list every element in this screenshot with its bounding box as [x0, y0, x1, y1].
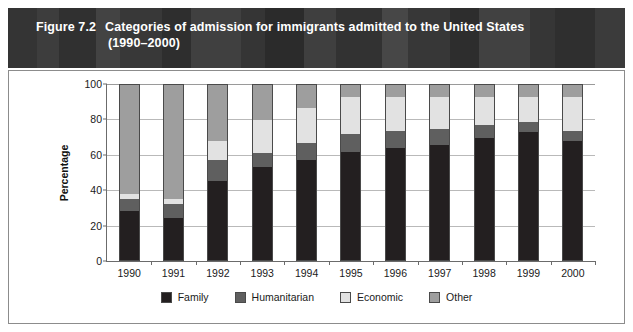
stacked-bar-1996[interactable] [385, 84, 406, 261]
x-tick-mark-2000 [551, 261, 552, 265]
bar-cell-1990 [107, 84, 151, 261]
bar-segment-family-1999 [519, 132, 538, 260]
legend-item-economic[interactable]: Economic [340, 291, 403, 303]
bar-segment-other-1994 [297, 85, 316, 108]
x-tick-label-1991: 1991 [162, 267, 185, 279]
bar-segment-other-1995 [341, 85, 360, 97]
bar-cell-1993 [240, 84, 284, 261]
bar-cell-1997 [418, 84, 462, 261]
legend-label-family: Family [178, 291, 209, 303]
bar-segment-other-1993 [253, 85, 272, 120]
x-tick-mark-end [595, 261, 596, 265]
x-tick-mark-1995 [329, 261, 330, 265]
x-tick-mark-1991 [151, 261, 152, 265]
x-tick-label-1999: 1999 [517, 267, 540, 279]
stacked-bar-1994[interactable] [296, 84, 317, 261]
legend-label-humanitarian: Humanitarian [252, 291, 314, 303]
x-tick-mark-1992 [196, 261, 197, 265]
x-tick-label-1998: 1998 [472, 267, 495, 279]
bar-segment-humanitarian-1993 [253, 153, 272, 167]
bar-segment-humanitarian-2000 [563, 131, 582, 142]
legend-swatch-economic [340, 292, 351, 303]
y-tick-label-100: 100 [84, 78, 102, 90]
bar-cell-1999 [506, 84, 550, 261]
bar-segment-economic-1999 [519, 97, 538, 122]
bar-segment-humanitarian-1998 [475, 125, 494, 137]
bar-segment-economic-1994 [297, 108, 316, 143]
bar-segment-family-1990 [120, 211, 139, 260]
bar-segment-economic-1995 [341, 97, 360, 134]
bar-segment-economic-1997 [430, 97, 449, 129]
bar-segment-humanitarian-1996 [386, 131, 405, 149]
bar-cell-2000 [551, 84, 595, 261]
chart-legend: FamilyHumanitarianEconomicOther [9, 291, 624, 303]
bar-segment-economic-2000 [563, 97, 582, 130]
stacked-bar-1995[interactable] [340, 84, 361, 261]
bar-segment-humanitarian-1999 [519, 122, 538, 133]
y-tick-label-60: 60 [90, 149, 102, 161]
bar-segment-other-1990 [120, 85, 139, 194]
stacked-bar-1993[interactable] [252, 84, 273, 261]
legend-swatch-humanitarian [235, 292, 246, 303]
figure-number: Figure 7.2 [36, 20, 96, 34]
bar-segment-humanitarian-1994 [297, 143, 316, 161]
bar-cell-1994 [284, 84, 328, 261]
stacked-bar-1992[interactable] [207, 84, 228, 261]
stacked-bar-1998[interactable] [474, 84, 495, 261]
x-tick-label-1990: 1990 [117, 267, 140, 279]
stacked-bar-1999[interactable] [518, 84, 539, 261]
bar-cell-1996 [373, 84, 417, 261]
stacked-bar-1991[interactable] [163, 84, 184, 261]
x-tick-label-1997: 1997 [428, 267, 451, 279]
bar-segment-humanitarian-1990 [120, 199, 139, 211]
plot-area: 020406080100 199019911992199319941995199… [106, 84, 595, 262]
bar-segment-other-1998 [475, 85, 494, 97]
legend-swatch-family [161, 292, 172, 303]
bar-segment-other-1999 [519, 85, 538, 97]
legend-item-humanitarian[interactable]: Humanitarian [235, 291, 314, 303]
y-tick-label-80: 80 [90, 113, 102, 125]
bar-segment-economic-1992 [208, 141, 227, 160]
bar-cell-1992 [196, 84, 240, 261]
x-tick-label-2000: 2000 [561, 267, 584, 279]
bar-cell-1995 [329, 84, 373, 261]
bar-cell-1998 [462, 84, 506, 261]
bar-segment-other-1996 [386, 85, 405, 97]
bar-segment-humanitarian-1997 [430, 129, 449, 145]
stacked-bar-1997[interactable] [429, 84, 450, 261]
figure-title: Figure 7.2Categories of admission for im… [36, 19, 615, 51]
bar-segment-economic-1996 [386, 97, 405, 130]
bar-segment-humanitarian-1995 [341, 134, 360, 152]
bar-segment-family-1993 [253, 167, 272, 260]
x-tick-mark-1999 [506, 261, 507, 265]
bar-segment-family-1997 [430, 145, 449, 261]
bar-segment-other-2000 [563, 85, 582, 97]
bar-segment-family-2000 [563, 141, 582, 260]
bar-group [107, 84, 595, 261]
legend-label-other: Other [446, 291, 472, 303]
x-tick-mark-1997 [418, 261, 419, 265]
legend-item-other[interactable]: Other [429, 291, 472, 303]
bar-segment-family-1996 [386, 148, 405, 260]
y-axis-label: Percentage [57, 84, 71, 262]
chart-panel: Percentage 020406080100 1990199119921993… [8, 70, 625, 324]
bar-segment-family-1995 [341, 152, 360, 261]
figure-title-line1: Categories of admission for immigrants a… [105, 20, 524, 34]
legend-label-economic: Economic [357, 291, 403, 303]
bar-segment-family-1992 [208, 181, 227, 260]
x-tick-mark-1998 [462, 261, 463, 265]
y-tick-label-0: 0 [96, 255, 102, 267]
legend-swatch-other [429, 292, 440, 303]
bar-cell-1991 [151, 84, 195, 261]
legend-item-family[interactable]: Family [161, 291, 209, 303]
stacked-bar-2000[interactable] [562, 84, 583, 261]
x-tick-label-1996: 1996 [384, 267, 407, 279]
stacked-bar-1990[interactable] [119, 84, 140, 261]
figure-banner: Figure 7.2Categories of admission for im… [8, 8, 625, 68]
x-tick-label-1992: 1992 [206, 267, 229, 279]
x-tick-label-1995: 1995 [339, 267, 362, 279]
bar-segment-humanitarian-1991 [164, 204, 183, 218]
y-tick-label-40: 40 [90, 184, 102, 196]
x-tick-mark-1993 [240, 261, 241, 265]
bar-segment-humanitarian-1992 [208, 160, 227, 181]
